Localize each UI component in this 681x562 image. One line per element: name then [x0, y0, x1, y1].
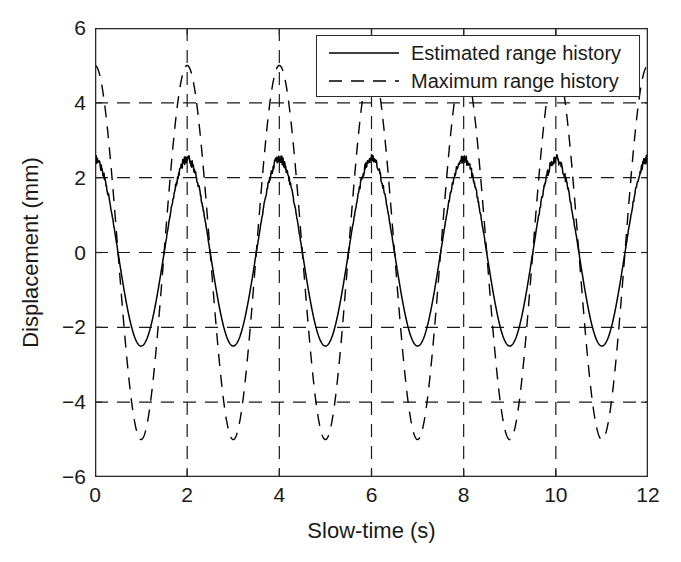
x-tick-label: 10 [544, 484, 567, 505]
legend-label-estimated: Estimated range history [411, 42, 621, 64]
x-tick-label: 4 [273, 484, 285, 505]
y-tick-label: 0 [74, 242, 86, 263]
y-tick-label: 2 [74, 167, 86, 188]
y-tick-label: −6 [62, 466, 86, 487]
x-tick-label: 0 [89, 484, 101, 505]
y-tick-label: −4 [62, 391, 86, 412]
y-tick-label: 6 [74, 17, 86, 38]
x-tick-label: 2 [181, 484, 193, 505]
x-tick-label: 6 [366, 484, 378, 505]
x-tick-label: 8 [458, 484, 470, 505]
legend-label-maximum: Maximum range history [411, 70, 619, 92]
legend-dashed-line-sample [327, 73, 401, 89]
y-tick-label: −2 [62, 316, 86, 337]
y-axis-tick-labels: −6−4−20246 [0, 28, 86, 477]
chart-legend: Estimated range history Maximum range hi… [316, 35, 640, 97]
figure-canvas: Displacement (mm) −6−4−20246 Estimated r… [0, 0, 681, 562]
legend-item-estimated: Estimated range history [317, 39, 639, 67]
y-tick-label: 4 [74, 92, 86, 113]
legend-item-maximum: Maximum range history [317, 67, 639, 95]
x-tick-label: 12 [636, 484, 659, 505]
x-axis-title: Slow-time (s) [95, 519, 648, 543]
legend-solid-line-sample [327, 45, 401, 61]
x-axis-tick-labels: 024681012 [95, 484, 648, 510]
